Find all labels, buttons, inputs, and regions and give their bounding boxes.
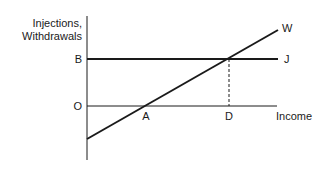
point-label-o: O [73, 100, 82, 112]
line-label-j: J [284, 53, 290, 65]
y-axis-label-line1: Injections, [32, 17, 82, 29]
line-label-w: W [282, 22, 293, 34]
y-axis-label-line2: Withdrawals [22, 30, 82, 42]
point-label-d: D [225, 110, 233, 122]
withdrawals-line-w [87, 30, 278, 139]
point-label-b: B [75, 53, 82, 65]
point-label-a: A [142, 110, 150, 122]
injections-withdrawals-diagram: Injections, Withdrawals B O A D W J Inco… [0, 0, 331, 175]
x-axis-label: Income [276, 110, 312, 122]
